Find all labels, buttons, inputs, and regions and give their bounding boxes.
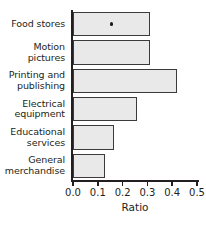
x-axis-title: Ratio xyxy=(71,201,199,213)
bar-printing-and-publishing xyxy=(73,69,177,93)
category-label-food-stores: Food stores xyxy=(0,19,65,30)
x-axis-tick-0.0 xyxy=(72,180,74,186)
x-axis-tick-label-0.5: 0.5 xyxy=(182,187,206,199)
category-label-printing-and-publishing: Printing and publishing xyxy=(0,70,65,91)
x-axis-tick-0.3 xyxy=(147,180,149,186)
category-label-general-merchandise: General merchandise xyxy=(0,155,65,176)
x-axis-tick-0.2 xyxy=(122,180,124,186)
category-label-electrical-equipment: Electrical equipment xyxy=(0,99,65,120)
bar-chart: Food stores Motion pictures Printing and… xyxy=(0,0,206,228)
category-axis-labels: Food stores Motion pictures Printing and… xyxy=(0,10,68,180)
x-axis-tick-0.5 xyxy=(196,180,198,186)
bar-motion-pictures xyxy=(73,40,150,64)
category-label-motion-pictures: Motion pictures xyxy=(0,42,65,63)
bar-electrical-equipment xyxy=(73,97,137,121)
x-axis-line xyxy=(71,180,199,182)
bar-general-merchandise xyxy=(73,154,105,178)
category-label-educational-services: Educational services xyxy=(0,127,65,148)
plot-area xyxy=(71,10,199,180)
x-axis-tick-0.4 xyxy=(171,180,173,186)
point-marker-icon xyxy=(110,22,113,25)
x-axis-tick-0.1 xyxy=(97,180,99,186)
bar-educational-services xyxy=(73,125,114,149)
